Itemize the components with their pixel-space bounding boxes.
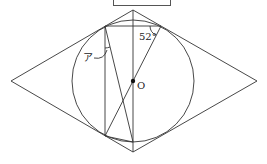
center-point-icon [131,79,135,83]
angle-arc-a [105,47,110,48]
geometry-figure [0,0,267,164]
chord-bottom-lower-left [105,136,133,142]
chord-to-bottom [105,26,133,142]
angle-label-a: ア [83,53,93,63]
center-label-o: O [137,81,145,91]
angle-label-52: 52° [139,32,157,42]
